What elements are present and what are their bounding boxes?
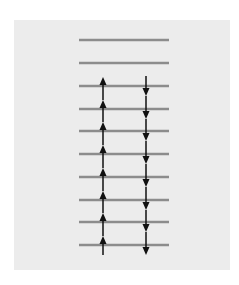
energy-level-diagram — [0, 0, 239, 285]
up-arrow-icon — [100, 168, 107, 176]
down-arrow-icon — [143, 224, 150, 232]
down-arrow-icon — [143, 202, 150, 210]
down-arrow-icon — [143, 133, 150, 141]
up-arrow-icon — [100, 191, 107, 199]
down-arrow-icon — [143, 111, 150, 119]
up-arrow-icon — [100, 100, 107, 108]
up-arrow-icon — [100, 122, 107, 130]
up-arrow-icon — [100, 77, 107, 85]
down-arrow-icon — [143, 247, 150, 255]
down-arrow-icon — [143, 88, 150, 96]
up-arrow-icon — [100, 145, 107, 153]
up-arrow-icon — [100, 213, 107, 221]
down-arrow-icon — [143, 156, 150, 164]
down-arrow-icon — [143, 179, 150, 187]
up-arrow-icon — [100, 236, 107, 244]
